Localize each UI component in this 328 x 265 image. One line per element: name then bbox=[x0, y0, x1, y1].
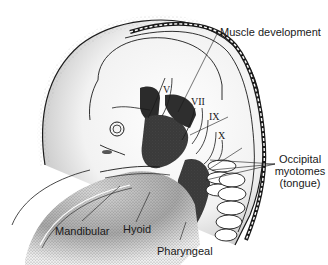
eye bbox=[110, 122, 124, 136]
label-muscle-development: Muscle development bbox=[220, 26, 321, 38]
label-pharyngeal: Pharyngeal bbox=[157, 245, 213, 257]
label-occipital-myotomes: Occipital myotomes (tongue) bbox=[272, 153, 328, 189]
nerve-label-ix: IX bbox=[209, 111, 220, 122]
label-hyoid: Hyoid bbox=[123, 223, 151, 235]
nerve-label-v: V bbox=[163, 84, 170, 95]
embryo-illustration bbox=[0, 0, 328, 265]
nerve-label-x: X bbox=[218, 130, 225, 141]
label-occipital-line2: myotomes bbox=[272, 165, 328, 177]
label-occipital-line3: (tongue) bbox=[272, 177, 328, 189]
nerve-label-vii: VII bbox=[191, 96, 205, 107]
label-mandibular: Mandibular bbox=[55, 225, 109, 237]
label-occipital-line1: Occipital bbox=[272, 153, 328, 165]
anatomy-figure: V VII IX X Muscle development Occipital … bbox=[0, 0, 328, 265]
nasal-pit bbox=[102, 150, 112, 154]
